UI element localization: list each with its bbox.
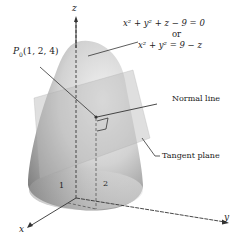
equation-line-2: x² + y² = 9 − z — [138, 40, 202, 50]
diagram-graphics — [0, 0, 239, 240]
point-p0-label: P0(1, 2, 4) — [13, 46, 59, 58]
z-axis-label: z — [72, 3, 77, 13]
point-coords: (1, 2, 4) — [23, 46, 59, 56]
x-axis-label: x — [19, 224, 24, 234]
equation-line-1: x² + y² + z − 9 = 0 — [123, 18, 205, 28]
y-axis-label: y — [224, 212, 229, 222]
x-tick-label: 1 — [59, 181, 64, 190]
y-tick-label: 2 — [103, 179, 108, 188]
equation-or: or — [172, 29, 181, 39]
normal-line-label: Normal line — [172, 94, 220, 103]
paraboloid-diagram: z P0(1, 2, 4) x² + y² + z − 9 = 0 or x² … — [0, 0, 239, 240]
tangent-plane-label: Tangent plane — [162, 151, 220, 160]
